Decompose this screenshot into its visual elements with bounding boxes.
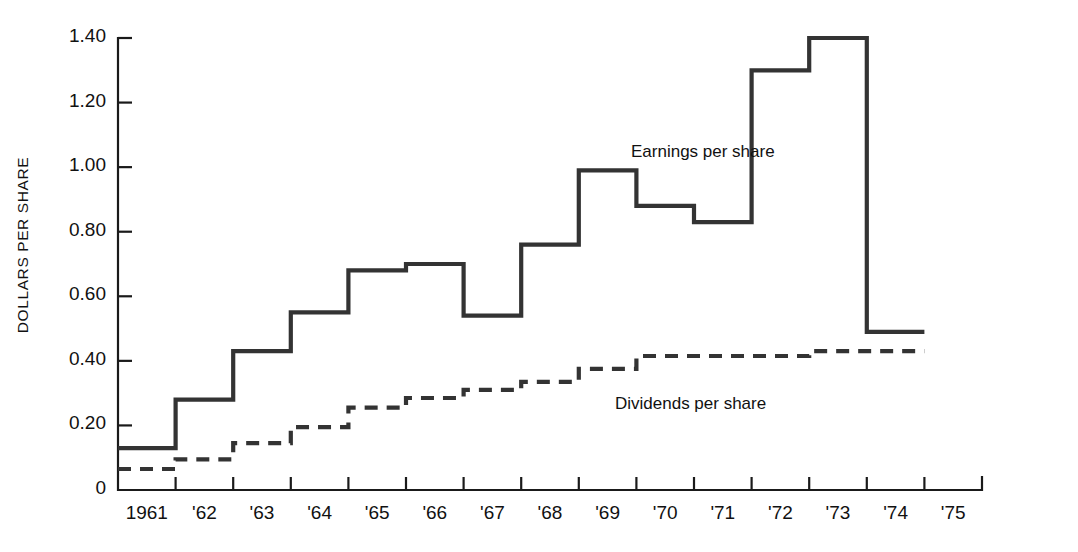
y-axis-tick-marks <box>118 38 132 425</box>
x-axis-tick-marks <box>176 477 925 490</box>
chart-figure: DOLLARS PER SHARE 1.401.201.000.800.600.… <box>0 0 1078 552</box>
x-tick-label: '75 <box>908 502 998 524</box>
chart-plot-area <box>0 0 1078 552</box>
y-tick-label: 0.60 <box>6 283 106 305</box>
series-line-dividends-per-share <box>118 351 924 469</box>
annotation-earnings-per-share: Earnings per share <box>631 142 775 162</box>
y-tick-label: 1.40 <box>6 25 106 47</box>
annotation-dividends-per-share: Dividends per share <box>615 394 766 414</box>
y-tick-label: 1.20 <box>6 90 106 112</box>
y-tick-label: 0.80 <box>6 219 106 241</box>
y-tick-label: 1.00 <box>6 154 106 176</box>
y-tick-label: 0 <box>6 477 106 499</box>
y-axis-title: DOLLARS PER SHARE <box>14 150 32 340</box>
axis-lines <box>118 38 982 490</box>
y-tick-label: 0.20 <box>6 412 106 434</box>
y-tick-label: 0.40 <box>6 348 106 370</box>
